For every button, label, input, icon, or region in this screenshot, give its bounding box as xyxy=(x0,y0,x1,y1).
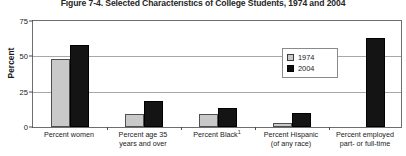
y-tick-label-75: 75 xyxy=(20,17,28,26)
x-category-label-5-line-2: part- or full-time xyxy=(328,140,402,149)
y-axis-title: Percent xyxy=(6,33,16,93)
x-category-label-4: Percent Hispanic(of any race) xyxy=(254,131,328,148)
bar-group-3 xyxy=(199,21,237,127)
x-category-label-2: Percent age 35years and over xyxy=(106,131,180,148)
y-tick-label-25: 25 xyxy=(20,87,28,96)
bars-layer xyxy=(33,21,401,127)
bar-2004-3[interactable] xyxy=(218,108,237,127)
bar-group-5 xyxy=(347,21,385,127)
x-category-label-5: Percent employedpart- or full-time xyxy=(328,131,402,148)
x-category-label-3: Percent Black1 xyxy=(180,131,254,140)
bar-group-1 xyxy=(51,21,89,127)
x-tick-mark-1 xyxy=(107,127,108,130)
legend-label-2004: 2004 xyxy=(298,64,314,73)
legend-label-1974: 1974 xyxy=(298,53,314,62)
x-category-label-1: Percent women xyxy=(32,131,106,140)
x-tick-mark-2 xyxy=(181,127,182,130)
plot-area: 75 50 25 0 1974 2004 xyxy=(32,20,402,128)
legend-swatch-1974-icon xyxy=(287,54,294,61)
y-tick-label-0: 0 xyxy=(24,123,28,132)
bar-2004-2[interactable] xyxy=(144,101,163,127)
bar-2004-4[interactable] xyxy=(292,113,311,127)
bar-1974-3[interactable] xyxy=(199,114,218,127)
x-category-label-3-line-1: Percent Black1 xyxy=(180,131,254,140)
x-tick-mark-4 xyxy=(329,127,330,130)
footnote-marker: 1 xyxy=(238,129,241,135)
bar-2004-1[interactable] xyxy=(70,45,89,127)
legend-swatch-2004-icon xyxy=(287,65,294,72)
bar-1974-2[interactable] xyxy=(125,114,144,127)
x-category-label-2-line-2: years and over xyxy=(106,140,180,149)
bar-group-2 xyxy=(125,21,163,127)
chart-title: Figure 7-4. Selected Characteristics of … xyxy=(0,0,406,9)
legend-item-1974[interactable]: 1974 xyxy=(287,52,333,63)
chart-legend: 1974 2004 xyxy=(282,48,338,78)
bar-1974-4[interactable] xyxy=(273,123,292,127)
x-category-label-1-line-1: Percent women xyxy=(32,131,106,140)
y-tick-label-50: 50 xyxy=(20,52,28,61)
x-category-label-4-line-2: (of any race) xyxy=(254,140,328,149)
x-tick-mark-3 xyxy=(255,127,256,130)
bar-1974-1[interactable] xyxy=(51,59,70,127)
bar-2004-5[interactable] xyxy=(366,38,385,127)
legend-item-2004[interactable]: 2004 xyxy=(287,63,333,74)
